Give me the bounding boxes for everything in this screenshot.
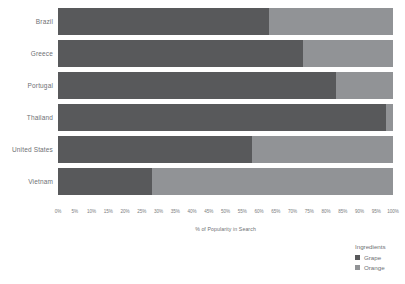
x-axis: 0%5%10%15%20%25%30%35%40%45%50%55%60%65%… [58,203,393,217]
x-tick-label: 80% [322,209,331,214]
bar-segment-orange[interactable] [252,136,393,163]
x-axis-title: % of Popularity in Search [58,226,393,232]
bar-row: United States [0,136,405,163]
category-label: Portugal [0,72,53,99]
legend-swatch-icon [355,265,360,270]
x-tick-label: 5% [72,209,78,214]
bar-track[interactable] [58,104,393,131]
bar-row: Portugal [0,72,405,99]
bar-row: Brazil [0,8,405,35]
bar-track[interactable] [58,40,393,67]
bar-segment-orange[interactable] [269,8,393,35]
x-tick-label: 75% [305,209,314,214]
bar-segment-grape[interactable] [58,168,152,195]
chart-plot-area: BrazilGreecePortugalThailandUnited State… [0,8,405,200]
chart-legend: Ingredients GrapeOrange [355,243,405,274]
bar-track[interactable] [58,136,393,163]
legend-swatch-icon [355,255,360,260]
bar-segment-grape[interactable] [58,40,303,67]
category-label: Vietnam [0,168,53,195]
category-label: United States [0,136,53,163]
legend-item[interactable]: Grape [355,254,405,261]
x-tick-label: 85% [338,209,347,214]
x-tick-label: 10% [87,209,96,214]
x-tick-label: 20% [121,209,130,214]
x-tick-label: 50% [221,209,230,214]
legend-item-label: Grape [364,254,381,261]
bar-segment-grape[interactable] [58,136,252,163]
x-tick-label: 65% [271,209,280,214]
x-tick-label: 35% [171,209,180,214]
x-tick-label: 90% [355,209,364,214]
x-tick-label: 40% [188,209,197,214]
x-tick-label: 45% [204,209,213,214]
bar-row: Thailand [0,104,405,131]
x-tick-label: 70% [288,209,297,214]
bar-row: Greece [0,40,405,67]
bar-track[interactable] [58,8,393,35]
bar-segment-orange[interactable] [336,72,393,99]
x-tick-label: 100% [387,209,398,214]
x-tick-label: 25% [137,209,146,214]
category-label: Brazil [0,8,53,35]
x-tick-label: 55% [238,209,247,214]
bar-segment-grape[interactable] [58,72,336,99]
x-tick-label: 60% [255,209,264,214]
bar-segment-orange[interactable] [303,40,393,67]
bar-row: Vietnam [0,168,405,195]
legend-item[interactable]: Orange [355,264,405,271]
legend-title: Ingredients [355,243,405,250]
legend-item-list: GrapeOrange [355,254,405,271]
x-tick-label: 95% [372,209,381,214]
bar-segment-orange[interactable] [386,104,393,131]
bar-track[interactable] [58,72,393,99]
stacked-bar-chart: BrazilGreecePortugalThailandUnited State… [0,0,405,284]
bar-segment-grape[interactable] [58,104,386,131]
category-label: Thailand [0,104,53,131]
legend-item-label: Orange [364,264,385,271]
x-tick-label: 30% [154,209,163,214]
x-tick-label: 15% [104,209,113,214]
bar-segment-grape[interactable] [58,8,269,35]
category-label: Greece [0,40,53,67]
x-tick-label: 0% [55,209,61,214]
bar-track[interactable] [58,168,393,195]
bar-segment-orange[interactable] [152,168,393,195]
